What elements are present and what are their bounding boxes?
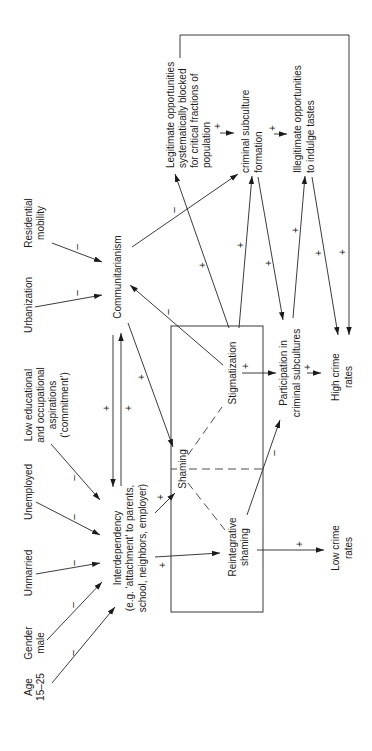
node-label-line: formation xyxy=(253,131,264,173)
sign-stigmatization-to-legitimate-blocked: + xyxy=(197,262,208,268)
sign-participation-to-high-crime: + xyxy=(302,364,313,370)
sign-reintegrative-to-low-crime: + xyxy=(294,541,305,547)
link-shaming-reintegrative xyxy=(188,483,225,530)
node-label-line: rates xyxy=(343,366,354,388)
edge-subculture-formation-to-participation xyxy=(258,177,283,320)
node-label-line: (‘commitment’) xyxy=(59,372,70,438)
node-label-line: (e.g. ‘attachment’ to parents, xyxy=(124,485,135,611)
sign-urbanization-to-communitarianism: – xyxy=(71,290,82,296)
node-label-line: Participation in xyxy=(278,340,289,406)
node-label-line: Gender xyxy=(23,626,34,660)
edge-stigmatization-to-legitimate-blocked xyxy=(175,174,229,328)
node-communitarianism: Communitarianism xyxy=(112,235,123,318)
sign-reintegrative-to-participation: – xyxy=(268,450,279,456)
node-label-line: and occupational xyxy=(35,367,46,443)
node-label-line: High crime xyxy=(330,353,341,401)
edge-urbanization-to-communitarianism xyxy=(35,295,102,307)
sign-interdependency-to-shaming: + xyxy=(155,494,166,500)
sign-illegitimate-to-high-crime: + xyxy=(313,250,324,256)
node-urbanization: Urbanization xyxy=(23,277,34,333)
node-legitimate-blocked: Legitimate opportunities systematically … xyxy=(165,62,212,168)
node-residential-mobility: Residential mobility xyxy=(23,198,46,247)
edge-age-to-interdependency xyxy=(52,607,115,683)
sign-interdependency-to-reintegrative: + xyxy=(157,562,168,568)
node-label-line: criminal subculture xyxy=(240,89,251,173)
node-label-line: Stigmatization xyxy=(227,342,238,405)
node-label-line: mobility xyxy=(35,206,46,240)
sign-stigmatization-to-participation: + xyxy=(240,363,251,369)
sign-unemployed-to-interdependency: – xyxy=(68,514,79,520)
sign-communitarianism-to-interdependency: + xyxy=(101,405,112,411)
node-label-line: Interdependency xyxy=(112,511,123,586)
node-stigmatization: Stigmatization xyxy=(227,342,238,405)
node-shaming: Shaming xyxy=(177,449,188,488)
sign-subculture-formation-to-participation: + xyxy=(263,260,274,266)
node-low-crime: Low crime rates xyxy=(330,525,354,571)
node-label-line: aspirations xyxy=(47,381,58,429)
node-label-line: criminal subcultures xyxy=(291,329,302,417)
node-illegitimate-opportunities: Illegitimate opportunities to indulge ta… xyxy=(292,65,316,173)
node-subculture-formation: criminal subculture formation xyxy=(240,89,264,173)
sign-subculture-formation-to-illegitimate: + xyxy=(267,125,278,131)
node-label-line: Urbanization xyxy=(23,277,34,333)
node-label-line: for critical fractions of xyxy=(189,73,200,168)
node-label-line: Unmarried xyxy=(23,550,34,597)
edge-participation-to-illegitimate xyxy=(293,176,305,318)
node-label-line: 15–25 xyxy=(35,673,46,701)
edge-gender-to-interdependency xyxy=(47,582,102,640)
node-unmarried: Unmarried xyxy=(23,550,34,597)
sign-stigmatization-to-subculture-formation: + xyxy=(235,242,246,248)
sign-age-to-interdependency: – xyxy=(67,650,78,656)
sign-communitarianism-to-shaming: + xyxy=(136,374,147,380)
sign-gender-to-interdependency: – xyxy=(67,602,78,608)
node-label-line: shaming xyxy=(239,528,250,566)
node-gender: Gender male xyxy=(23,626,46,660)
node-age: Age 15–25 xyxy=(23,673,46,701)
node-high-crime: High crime rates xyxy=(330,353,354,401)
edge-stigmatization-to-subculture-formation xyxy=(239,176,252,328)
node-label-line: Low educational xyxy=(23,369,34,441)
node-label-line: Reintegrative xyxy=(227,517,238,576)
edge-legitimate-blocked-to-high-crime xyxy=(180,35,349,335)
sign-legitimate-blocked-to-high-crime: + xyxy=(337,249,348,255)
node-interdependency: Interdependency (e.g. ‘attachment’ to pa… xyxy=(112,484,148,612)
node-low-aspirations: Low educational and occupational aspirat… xyxy=(23,367,70,443)
sign-communitarianism-to-subculture-formation: – xyxy=(168,207,179,213)
node-participation: Participation in criminal subcultures xyxy=(278,329,302,417)
sign-legitimate-blocked-to-subculture-formation: + xyxy=(212,123,223,129)
sign-stigmatization-to-communitarianism: – xyxy=(162,309,173,315)
sign-mobility-to-communitarianism: – xyxy=(71,244,82,250)
diagram-canvas: – – – – – – – + + + + + – – + + + + + + … xyxy=(0,0,372,751)
node-label-line: rates xyxy=(343,537,354,559)
node-label-line: Unemployed xyxy=(23,464,34,520)
node-label-line: Low crime xyxy=(330,525,341,571)
sign-unmarried-to-interdependency: – xyxy=(68,560,79,566)
sign-aspirations-to-interdependency: – xyxy=(68,475,79,481)
node-label-line: Illegitimate opportunities xyxy=(292,65,303,173)
node-label-line: population xyxy=(201,122,212,168)
node-label-line: Shaming xyxy=(177,449,188,488)
node-label-line: male xyxy=(35,632,46,654)
node-label-line: Communitarianism xyxy=(112,235,123,318)
node-label-line: Legitimate opportunities xyxy=(165,62,176,168)
node-unemployed: Unemployed xyxy=(23,464,34,520)
edge-communitarianism-to-subculture-formation xyxy=(132,174,238,247)
node-label-line: systematically blocked xyxy=(177,69,188,168)
edge-aspirations-to-interdependency xyxy=(51,444,100,500)
edge-stigmatization-to-communitarianism xyxy=(130,285,223,365)
node-label-line: Residential xyxy=(23,198,34,247)
edge-communitarianism-to-shaming xyxy=(128,323,173,447)
link-shaming-stigmatization xyxy=(188,407,222,455)
sign-participation-to-illegitimate: + xyxy=(290,227,301,233)
node-label-line: Age xyxy=(23,678,34,696)
node-reintegrative-shaming: Reintegrative shaming xyxy=(227,517,250,576)
node-label-line: school, neighbors, employer) xyxy=(137,484,148,612)
sign-interdependency-to-communitarianism: + xyxy=(123,405,134,411)
edge-interdependency-to-reintegrative xyxy=(155,553,220,557)
node-label-line: to indulge tastes xyxy=(305,100,316,173)
